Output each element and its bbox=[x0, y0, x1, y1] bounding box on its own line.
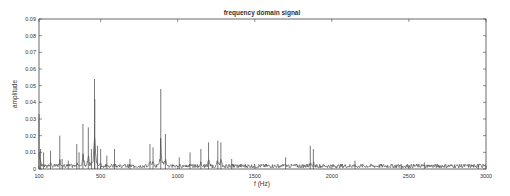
x-axis-label: f (Hz) bbox=[254, 180, 270, 188]
y-tick-label: 0.05 bbox=[25, 83, 36, 89]
x-tick-label: 2000 bbox=[326, 173, 338, 179]
x-tick-label: 1500 bbox=[249, 173, 261, 179]
plot-area bbox=[39, 19, 486, 169]
x-tick-label: 1000 bbox=[172, 173, 184, 179]
y-axis-label: amplitude bbox=[11, 80, 19, 109]
y-tick-label: 0.06 bbox=[25, 66, 36, 72]
y-tick-label: 0.02 bbox=[25, 133, 36, 139]
chart-svg: 10050010001500200025003000 00.010.020.03… bbox=[0, 0, 510, 196]
y-tick-label: 0.09 bbox=[25, 16, 36, 22]
y-tick-label: 0.04 bbox=[25, 99, 36, 105]
x-tick-label: 2500 bbox=[403, 173, 415, 179]
y-tick-label: 0.08 bbox=[25, 33, 36, 39]
y-tick-label: 0.07 bbox=[25, 49, 36, 55]
y-tick-label: 0 bbox=[33, 166, 36, 172]
x-tick-label: 500 bbox=[96, 173, 105, 179]
x-tick-label: 3000 bbox=[480, 173, 492, 179]
y-tick-label: 0.03 bbox=[25, 116, 36, 122]
chart-title: frequency domain signal bbox=[224, 9, 301, 17]
y-tick-label: 0.01 bbox=[25, 149, 36, 155]
figure: 10050010001500200025003000 00.010.020.03… bbox=[0, 0, 510, 196]
x-tick-label: 100 bbox=[34, 173, 43, 179]
